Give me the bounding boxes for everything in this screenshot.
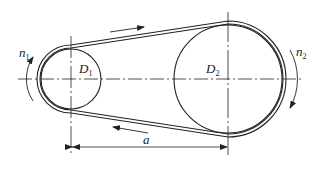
label-d1: D1 [78,61,92,78]
belt-drive-diagram: D1 D2 n1 n2 a [0,0,320,169]
belt-top-direction-arrow [110,27,144,32]
label-n1: n1 [19,45,30,62]
label-n2: n2 [296,44,307,61]
label-center-distance: a [143,132,150,147]
label-d2: D2 [205,61,219,78]
